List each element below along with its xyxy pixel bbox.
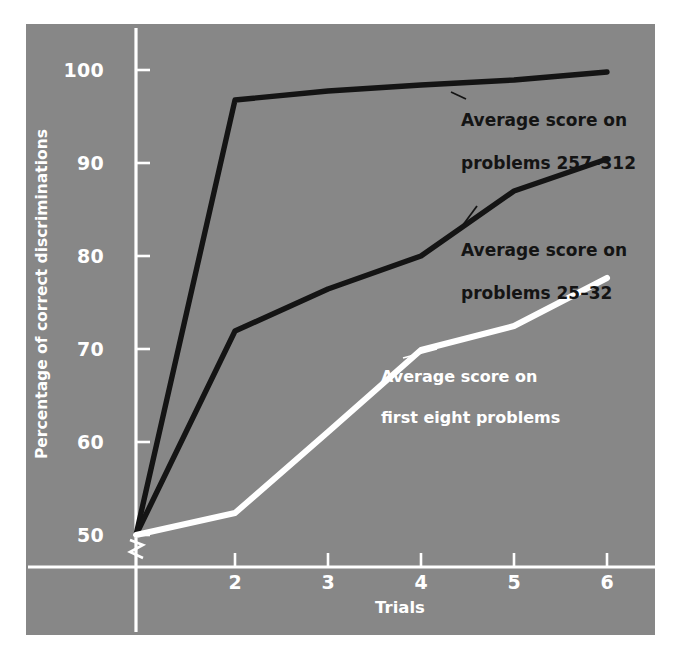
y-tick-label-70: 70 (56, 338, 104, 360)
annotation-line-1: Average score on (461, 110, 636, 132)
annotation-line-1: Average score on (381, 367, 560, 387)
y-tick-label-80: 80 (56, 245, 104, 267)
y-axis-ticks (136, 70, 150, 535)
x-tick-label-5: 5 (499, 571, 529, 593)
x-axis-ticks (235, 553, 607, 567)
x-axis-title: Trials (340, 598, 460, 617)
y-tick-label-90: 90 (56, 152, 104, 174)
chart-figure: 100 90 80 70 60 50 2 3 4 5 6 Percentage … (0, 0, 682, 664)
y-axis-break-symbol (130, 540, 143, 558)
y-axis-title: Percentage of correct discriminations (33, 159, 51, 459)
x-tick-label-4: 4 (406, 571, 436, 593)
annotation-line-2: problems 25–32 (461, 283, 627, 305)
x-tick-label-2: 2 (220, 571, 250, 593)
y-tick-label-50: 50 (56, 524, 104, 546)
series-annotation-problems-257-312: Average score on problems 257–312 (461, 88, 636, 197)
x-tick-label-6: 6 (592, 571, 622, 593)
annotation-line-2: first eight problems (381, 408, 560, 428)
series-annotation-first-eight-problems: Average score on first eight problems (381, 347, 560, 449)
x-tick-label-3: 3 (313, 571, 343, 593)
series-annotation-problems-25-32: Average score on problems 25–32 (461, 218, 627, 327)
annotation-line-1: Average score on (461, 240, 627, 262)
y-tick-label-100: 100 (56, 59, 104, 81)
annotation-line-2: problems 257–312 (461, 153, 636, 175)
y-tick-label-60: 60 (56, 431, 104, 453)
